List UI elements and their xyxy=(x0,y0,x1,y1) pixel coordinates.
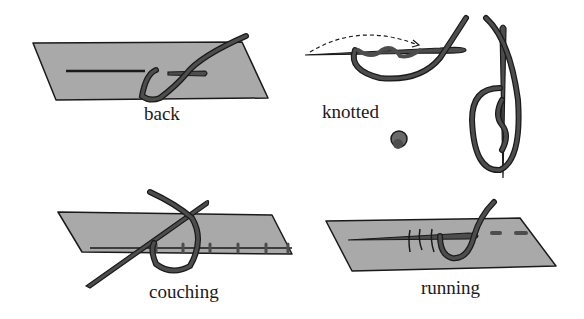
knotted-thread-loop xyxy=(354,18,466,79)
running-label: running xyxy=(421,278,480,297)
knotted-stitch-illustration xyxy=(305,18,519,178)
back-label: back xyxy=(144,104,180,123)
knotted-label: knotted xyxy=(322,102,379,121)
back-stitch-illustration xyxy=(33,36,268,100)
running-stitch-illustration xyxy=(326,202,556,271)
stitch-illustrations xyxy=(0,0,584,319)
couching-label: couching xyxy=(149,282,219,301)
couching-stitch-illustration xyxy=(58,192,292,288)
